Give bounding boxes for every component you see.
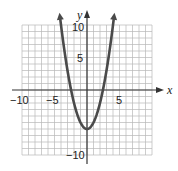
y-axis-arrow-icon (84, 10, 90, 18)
y-axis-label: y (76, 8, 83, 22)
parabola-graph: x y −10 −5 5 10 5 −10 (0, 0, 178, 171)
y-tick-10: 10 (72, 21, 84, 33)
curve-arrow-left-icon (57, 13, 64, 20)
x-tick-neg5: −5 (46, 94, 59, 106)
x-axis-arrow-icon (156, 87, 164, 93)
x-tick-neg10: −10 (10, 94, 29, 106)
x-tick-5: 5 (116, 94, 122, 106)
x-axis-label: x (166, 83, 173, 97)
y-tick-5: 5 (77, 52, 83, 64)
curve-arrow-right-icon (110, 13, 117, 20)
y-tick-neg10: −10 (66, 149, 85, 161)
